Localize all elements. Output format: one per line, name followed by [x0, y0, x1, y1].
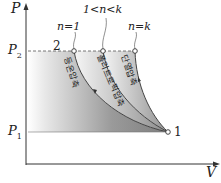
index-adiabatic: n=k [128, 20, 151, 33]
point-isothermal-end [72, 49, 77, 54]
leader-nk [135, 32, 137, 49]
p2-label: P2 [8, 42, 22, 60]
leader-poly [103, 18, 107, 49]
index-polytropic: 1<n<k [83, 3, 122, 16]
point-1-label: 1 [174, 125, 182, 139]
point-1 [166, 130, 171, 135]
point-adiabatic-end [133, 49, 138, 54]
y-axis-arrow-icon [24, 3, 29, 10]
index-isothermal: n=1 [57, 20, 80, 33]
y-axis-label: P [11, 0, 20, 16]
p1-label: P1 [8, 123, 22, 141]
point-2-label: 2 [53, 39, 61, 53]
x-axis-label: V [206, 164, 216, 180]
leader-n1 [74, 32, 76, 49]
pv-diagram: 등온압축 폴리트로픽압축 단열압축 [0, 0, 221, 183]
